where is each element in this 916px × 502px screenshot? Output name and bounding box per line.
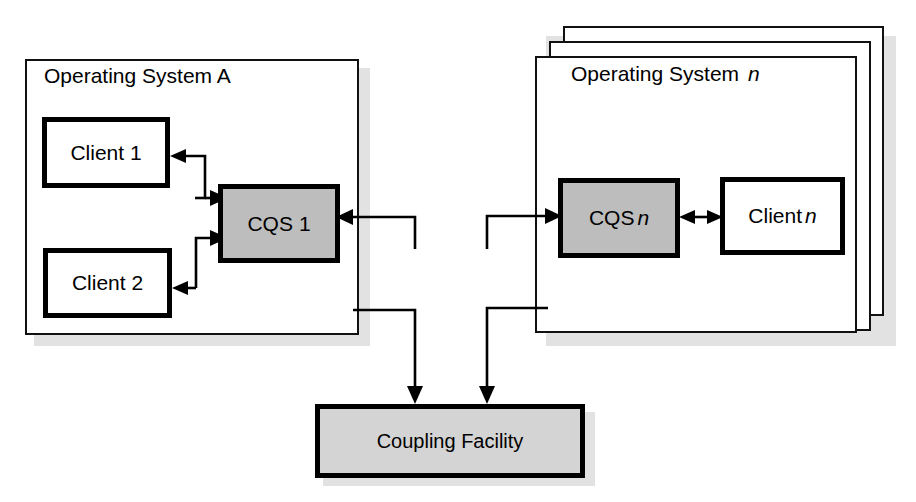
cqs-1-label-suffix: 1 <box>293 212 311 236</box>
client-2-box[interactable]: Client 2 <box>43 248 172 318</box>
cqs-n-label-prefix: CQS <box>589 206 635 230</box>
client-1-label: Client 1 <box>70 141 141 165</box>
coupling-facility-box[interactable]: Coupling Facility <box>315 404 585 478</box>
operating-system-a-title: Operating System A <box>44 64 231 88</box>
client-n-label-suffix: n <box>802 204 817 228</box>
client-2-label: Client 2 <box>72 271 143 295</box>
client-n-box[interactable]: Client n <box>720 177 845 255</box>
operating-system-n-title-suffix: n <box>745 62 760 85</box>
operating-system-n-title-prefix: Operating System <box>571 62 739 85</box>
cqs-1-box[interactable]: CQS 1 <box>218 184 340 263</box>
cqs-1-label-prefix: CQS <box>247 212 293 236</box>
cqs-n-label-suffix: n <box>634 206 649 230</box>
operating-system-a-title-prefix: Operating System <box>44 64 212 87</box>
operating-system-n-title: Operating System n <box>571 62 760 86</box>
client-1-box[interactable]: Client 1 <box>42 117 170 188</box>
client-n-label-prefix: Client <box>748 204 802 228</box>
coupling-facility-label: Coupling Facility <box>377 430 524 453</box>
diagram-canvas: Operating System A Client 1 Client 2 CQS… <box>0 0 916 502</box>
wire-cqs1-to-cf-arrowhead <box>407 386 423 404</box>
operating-system-a-title-suffix: A <box>217 64 231 87</box>
cqs-n-box[interactable]: CQS n <box>558 178 680 258</box>
wire-cqsn-to-cf-arrowhead <box>479 386 495 404</box>
